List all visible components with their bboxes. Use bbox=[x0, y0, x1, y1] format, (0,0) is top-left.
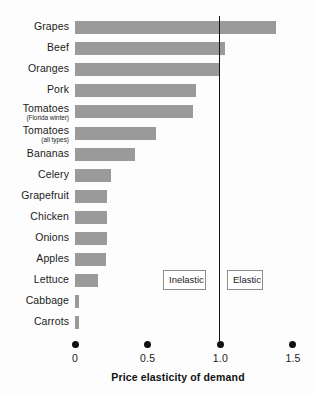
category-label: Beef bbox=[0, 42, 69, 53]
bar bbox=[75, 42, 225, 55]
category-label-text: Oranges bbox=[28, 62, 69, 74]
category-label: Pork bbox=[0, 84, 69, 95]
bar bbox=[75, 21, 276, 34]
category-label-sublabel: (all types) bbox=[0, 136, 69, 143]
category-label-text: Lettuce bbox=[34, 273, 69, 285]
category-label-text: Grapefruit bbox=[21, 189, 69, 201]
table-row: Grapefruit bbox=[0, 187, 316, 208]
category-label-text: Bananas bbox=[27, 147, 69, 159]
x-axis-tick-label: 1.0 bbox=[206, 352, 234, 364]
bar bbox=[75, 211, 107, 224]
table-row: Celery bbox=[0, 166, 316, 187]
table-row: Cabbage bbox=[0, 292, 316, 313]
x-axis-tick-label: 0.5 bbox=[134, 352, 162, 364]
bar bbox=[75, 253, 106, 266]
table-row: Tomatoes(Florida winter) bbox=[0, 102, 316, 123]
category-label: Cabbage bbox=[0, 295, 69, 306]
table-row: Onions bbox=[0, 229, 316, 250]
zone-label-inelastic: Inelastic bbox=[163, 270, 206, 290]
category-label: Celery bbox=[0, 169, 69, 180]
category-label-text: Tomatoes bbox=[23, 102, 69, 114]
bar bbox=[75, 84, 196, 97]
bar bbox=[75, 148, 135, 161]
category-label: Tomatoes(Florida winter) bbox=[0, 103, 69, 121]
category-label: Apples bbox=[0, 253, 69, 264]
category-label-text: Apples bbox=[36, 252, 69, 264]
category-label: Chicken bbox=[0, 211, 69, 222]
table-row: Lettuce bbox=[0, 271, 316, 292]
zone-label-elastic: Elastic bbox=[227, 270, 263, 290]
bar bbox=[75, 316, 79, 329]
table-row: Grapes bbox=[0, 18, 316, 39]
category-label: Oranges bbox=[0, 63, 69, 74]
category-label-text: Onions bbox=[35, 231, 69, 243]
table-row: Chicken bbox=[0, 208, 316, 229]
x-axis-tick-dot bbox=[72, 341, 79, 348]
x-axis-tick-dot bbox=[217, 341, 224, 348]
table-row: Carrots bbox=[0, 313, 316, 334]
x-axis-tick-dot bbox=[289, 341, 296, 348]
category-label-text: Celery bbox=[38, 168, 69, 180]
category-label: Grapes bbox=[0, 21, 69, 32]
bar bbox=[75, 190, 107, 203]
table-row: Oranges bbox=[0, 60, 316, 81]
category-label-text: Cabbage bbox=[26, 294, 69, 306]
category-label-text: Tomatoes bbox=[23, 124, 69, 136]
table-row: Apples bbox=[0, 250, 316, 271]
x-axis-tick-label: 1.5 bbox=[279, 352, 307, 364]
table-row: Bananas bbox=[0, 145, 316, 166]
x-axis: Price elasticity of demand 00.51.01.5 bbox=[0, 341, 316, 396]
category-label-text: Chicken bbox=[30, 210, 69, 222]
category-label: Onions bbox=[0, 232, 69, 243]
category-label-text: Pork bbox=[47, 83, 69, 95]
category-label-text: Beef bbox=[47, 41, 69, 53]
x-axis-tick-dot bbox=[144, 341, 151, 348]
x-axis-title-text: Price elasticity of demand bbox=[71, 371, 244, 383]
x-axis-tick-label: 0 bbox=[61, 352, 89, 364]
category-label: Grapefruit bbox=[0, 190, 69, 201]
bar bbox=[75, 63, 219, 76]
bar bbox=[75, 169, 111, 182]
table-row: Beef bbox=[0, 39, 316, 60]
category-label-text: Grapes bbox=[34, 20, 69, 32]
bar bbox=[75, 295, 79, 308]
elasticity-bar-chart: GrapesBeefOrangesPorkTomatoes(Florida wi… bbox=[0, 0, 316, 396]
category-label: Bananas bbox=[0, 148, 69, 159]
x-axis-title: Price elasticity of demand bbox=[0, 371, 316, 383]
bar bbox=[75, 232, 107, 245]
bar bbox=[75, 127, 156, 140]
category-label: Carrots bbox=[0, 316, 69, 327]
category-label: Lettuce bbox=[0, 274, 69, 285]
table-row: Tomatoes(all types) bbox=[0, 124, 316, 145]
table-row: Pork bbox=[0, 81, 316, 102]
category-label: Tomatoes(all types) bbox=[0, 125, 69, 143]
unit-elastic-reference-line bbox=[219, 16, 220, 341]
bar bbox=[75, 105, 193, 118]
category-label-sublabel: (Florida winter) bbox=[0, 114, 69, 121]
bar bbox=[75, 274, 98, 287]
chart-plot-area: GrapesBeefOrangesPorkTomatoes(Florida wi… bbox=[0, 0, 316, 340]
category-label-text: Carrots bbox=[34, 315, 69, 327]
